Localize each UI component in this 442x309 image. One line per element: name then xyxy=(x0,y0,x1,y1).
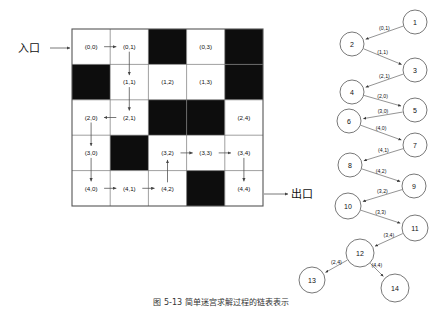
linked-list-node: 1 xyxy=(403,10,427,34)
figure-svg: (0,0)(0,1)(0,3)(1,1)(1,2)(1,3)(2,0)(2,1)… xyxy=(0,0,442,309)
linked-list-node: 6 xyxy=(337,109,361,133)
maze-cell-blocked xyxy=(187,100,225,135)
node-label: 5 xyxy=(413,107,417,114)
linked-list-edge-labels: (0,1)(1,1)(2,1)(2,0)(3,0)(4,0)(4,1)(4,2)… xyxy=(331,25,394,268)
figure-canvas: (0,0)(0,1)(0,3)(1,1)(1,2)(1,3)(2,0)(2,1)… xyxy=(0,0,442,309)
node-label: 14 xyxy=(391,285,399,292)
linked-list-node: 13 xyxy=(299,267,325,293)
maze-cell-blocked xyxy=(110,135,148,170)
node-label: 3 xyxy=(413,67,417,74)
maze-cell-label: (4,4) xyxy=(238,185,251,192)
linked-list-edge-label: (3,0) xyxy=(378,108,389,114)
linked-list-edge-label: (4,2) xyxy=(376,168,387,174)
linked-list-node: 3 xyxy=(403,58,427,82)
maze-cell-blocked xyxy=(225,64,263,99)
linked-list-node: 8 xyxy=(338,153,362,177)
maze-cell-label: (1,3) xyxy=(199,78,212,85)
linked-list-edge-label: (3,4) xyxy=(384,232,395,238)
maze-cell-label: (3,2) xyxy=(161,149,174,156)
maze-cell-label: (1,1) xyxy=(123,78,136,85)
linked-list-edge-label: (1,1) xyxy=(377,49,388,55)
maze-cell-label: (1,2) xyxy=(161,78,174,85)
maze-cell-label: (2,4) xyxy=(238,114,251,121)
linked-list-node: 14 xyxy=(381,274,409,302)
maze-cell-label: (0,1) xyxy=(123,43,136,50)
maze-cell-blocked xyxy=(225,29,263,64)
linked-list-edge-label: (2,4) xyxy=(331,259,342,265)
node-label: 7 xyxy=(413,142,417,149)
maze-cell-label: (3,0) xyxy=(85,149,98,156)
node-label: 1 xyxy=(413,19,417,26)
node-label: 12 xyxy=(356,250,364,257)
linked-list-edge-label: (3,2) xyxy=(377,188,388,194)
linked-list-edge-label: (4,4) xyxy=(371,262,382,268)
exit-label: 出口 xyxy=(291,187,313,201)
linked-list-nodes: 1234567891011121314 xyxy=(299,10,428,302)
linked-list-edge-label: (0,1) xyxy=(379,25,390,31)
exit-marker: 出口 xyxy=(264,187,313,201)
linked-list-edges xyxy=(326,26,404,276)
linked-list-node: 4 xyxy=(340,80,364,104)
node-label: 11 xyxy=(411,225,418,232)
figure-caption: 图 5-13 简单迷宫求解过程的链表表示 xyxy=(153,297,288,307)
maze-cell-label: (3,3) xyxy=(199,149,212,156)
maze-cell-blocked xyxy=(72,64,110,99)
linked-list-node: 2 xyxy=(340,32,364,56)
node-label: 6 xyxy=(347,118,351,125)
node-label: 9 xyxy=(412,183,416,190)
maze-cell-label: (2,0) xyxy=(85,114,98,121)
linked-list-edge-label: (2,0) xyxy=(377,93,388,99)
linked-list-node: 5 xyxy=(403,98,427,122)
maze-cell-label: (4,2) xyxy=(161,185,174,192)
linked-list-edge-label: (2,1) xyxy=(379,73,390,79)
entrance-label: 入口 xyxy=(18,42,40,55)
entrance-marker: 入口 xyxy=(18,42,70,55)
linked-list-edge-label: (4,0) xyxy=(376,125,387,131)
linked-list-node: 11 xyxy=(402,215,428,241)
node-label: 13 xyxy=(308,277,316,284)
linked-list-node: 12 xyxy=(346,239,374,267)
linked-list-edge-label: (3,3) xyxy=(375,209,386,215)
node-label: 2 xyxy=(350,41,354,48)
maze-cell-blocked xyxy=(187,171,225,206)
maze-cell-blocked xyxy=(148,100,186,135)
maze-cell-label: (4,0) xyxy=(85,185,98,192)
maze-cell-label: (4,1) xyxy=(123,185,136,192)
maze-cell-label: (0,3) xyxy=(199,43,212,50)
node-label: 4 xyxy=(350,89,354,96)
linked-list-node: 9 xyxy=(402,174,426,198)
maze-cell-label: (0,0) xyxy=(85,43,98,50)
maze-cell-label: (2,1) xyxy=(123,114,136,121)
linked-list-node: 7 xyxy=(403,133,427,157)
maze-cell-label: (3,4) xyxy=(238,149,251,156)
maze-cell-blocked xyxy=(148,29,186,64)
node-label: 8 xyxy=(348,162,352,169)
linked-list-edge-label: (4,1) xyxy=(378,147,389,153)
node-label: 10 xyxy=(344,203,352,210)
linked-list-node: 10 xyxy=(335,193,361,219)
